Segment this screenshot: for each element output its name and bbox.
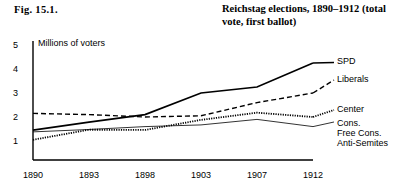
series-line-cons xyxy=(33,119,313,131)
leader-line-center xyxy=(313,110,334,117)
leader-line-cons xyxy=(313,122,334,127)
series-lines xyxy=(33,63,313,140)
figure-number: Fig. 15.1. xyxy=(14,4,58,15)
series-line-spd xyxy=(33,63,313,130)
leader-line-spd xyxy=(313,63,334,64)
figure-container: Fig. 15.1. Reichstag elections, 1890–191… xyxy=(0,0,410,187)
leader-line-liberals xyxy=(313,80,334,93)
legend-leader-lines xyxy=(313,63,334,127)
chart-plot-area xyxy=(0,32,410,172)
figure-title: Reichstag elections, 1890–1912 (total vo… xyxy=(222,3,408,28)
